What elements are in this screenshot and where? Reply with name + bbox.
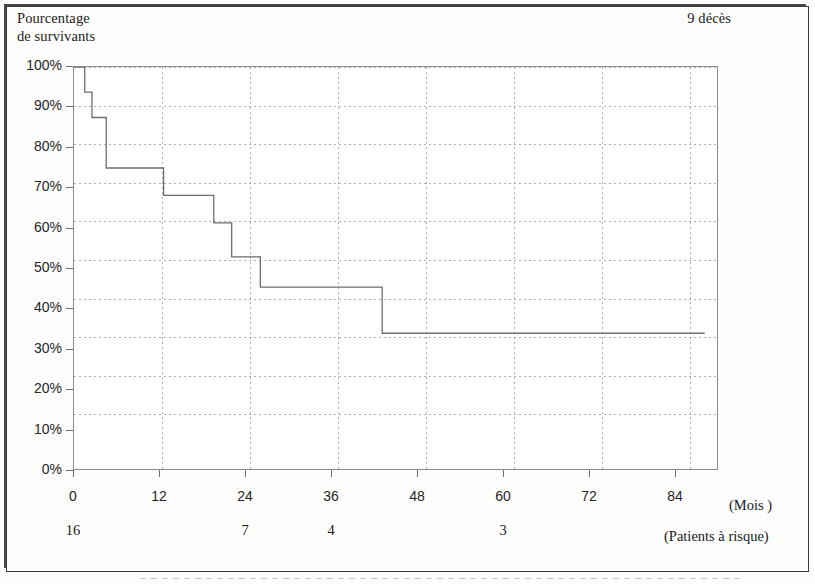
deaths-annotation: 9 décès bbox=[687, 10, 731, 27]
x-axis-tick-label: 72 bbox=[569, 488, 609, 504]
y-axis-tick-mark bbox=[66, 268, 73, 269]
x-axis-tick-label: 24 bbox=[225, 488, 265, 504]
x-axis-tick-label: 36 bbox=[311, 488, 351, 504]
y-axis-tick-label: 90% bbox=[4, 97, 62, 113]
y-axis-tick-label: 30% bbox=[4, 340, 62, 356]
y-axis-tick-label: 60% bbox=[4, 219, 62, 235]
scan-artifact-line bbox=[140, 578, 740, 579]
x-axis-tick-mark bbox=[589, 470, 590, 477]
y-axis-tick-label: 70% bbox=[4, 178, 62, 194]
at-risk-caption: (Patients à risque) bbox=[664, 528, 769, 545]
y-axis-tick-mark bbox=[66, 349, 73, 350]
x-axis-tick-mark bbox=[245, 470, 246, 477]
y-axis-tick-label: 80% bbox=[4, 138, 62, 154]
chart-page: Pourcentage de survivants 9 décès 0%10%2… bbox=[0, 0, 815, 584]
survival-curve bbox=[74, 67, 719, 471]
x-axis-tick-mark bbox=[675, 470, 676, 477]
y-axis-tick-mark bbox=[66, 430, 73, 431]
y-axis-tick-label: 40% bbox=[4, 299, 62, 315]
y-axis-tick-label: 50% bbox=[4, 259, 62, 275]
y-axis-tick-mark bbox=[66, 470, 73, 471]
y-axis-tick-mark bbox=[66, 187, 73, 188]
x-axis-tick-mark bbox=[503, 470, 504, 477]
y-axis-tick-label: 20% bbox=[4, 380, 62, 396]
x-axis-tick-label: 60 bbox=[483, 488, 523, 504]
x-axis-tick-mark bbox=[331, 470, 332, 477]
y-axis-tick-mark bbox=[66, 106, 73, 107]
y-axis-title: Pourcentage de survivants bbox=[17, 9, 95, 45]
x-axis-tick-mark bbox=[417, 470, 418, 477]
y-axis-tick-label: 0% bbox=[4, 461, 62, 477]
y-axis-tick-mark bbox=[66, 308, 73, 309]
x-axis-unit-caption: (Mois ) bbox=[729, 497, 772, 514]
x-axis-tick-label: 84 bbox=[655, 488, 695, 504]
y-axis-tick-mark bbox=[66, 228, 73, 229]
x-axis-tick-label: 48 bbox=[397, 488, 437, 504]
y-axis-tick-mark bbox=[66, 147, 73, 148]
at-risk-count: 3 bbox=[483, 522, 523, 539]
plot-area bbox=[73, 66, 718, 470]
y-axis-tick-label: 100% bbox=[4, 57, 62, 73]
y-axis-tick-mark bbox=[66, 66, 73, 67]
x-axis-tick-label: 0 bbox=[53, 488, 93, 504]
y-axis-tick-label: 10% bbox=[4, 421, 62, 437]
at-risk-count: 4 bbox=[311, 522, 351, 539]
x-axis-tick-mark bbox=[73, 470, 74, 477]
x-axis-tick-mark bbox=[159, 470, 160, 477]
at-risk-count: 7 bbox=[225, 522, 265, 539]
y-axis-tick-mark bbox=[66, 389, 73, 390]
at-risk-count: 16 bbox=[53, 522, 93, 539]
x-axis-tick-label: 12 bbox=[139, 488, 179, 504]
